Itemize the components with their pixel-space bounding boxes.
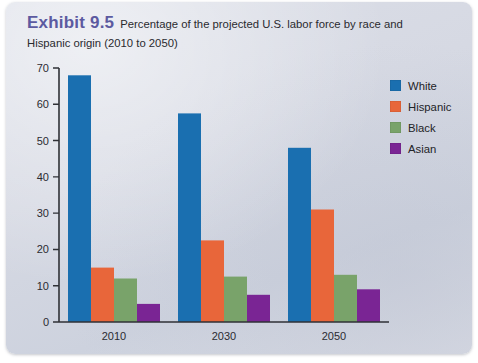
category-label-2030: 2030	[212, 330, 236, 342]
y-axis: 010203040506070	[37, 62, 59, 328]
legend-label-hispanic: Hispanic	[408, 101, 451, 113]
bar-white-2030	[178, 113, 201, 322]
bar-black-2030	[224, 277, 247, 322]
legend-item-hispanic: Hispanic	[390, 96, 472, 117]
legend-label-asian: Asian	[408, 143, 436, 155]
chart-legend: White Hispanic Black Asian	[390, 75, 472, 159]
y-axis-tick-label: 50	[37, 135, 49, 147]
legend-label-black: Black	[408, 122, 436, 134]
chart-plot-area: 010203040506070 201020302050	[6, 2, 472, 354]
bar-black-2050	[334, 275, 357, 322]
bar-asian-2030	[247, 295, 270, 322]
bar-black-2010	[114, 279, 137, 323]
bar-white-2010	[68, 75, 91, 322]
y-axis-tick-label: 60	[37, 98, 49, 110]
legend-swatch-asian	[390, 143, 401, 154]
legend-item-asian: Asian	[390, 138, 472, 159]
legend-swatch-white	[390, 80, 401, 91]
legend-swatch-black	[390, 122, 401, 133]
y-axis-tick-label: 70	[37, 62, 49, 74]
bar-hispanic-2030	[201, 240, 224, 322]
y-axis-tick-label: 20	[37, 243, 49, 255]
legend-label-white: White	[408, 80, 437, 92]
bar-asian-2010	[137, 304, 160, 322]
legend-swatch-hispanic	[390, 101, 401, 112]
category-label-2050: 2050	[322, 330, 346, 342]
bar-white-2050	[288, 148, 311, 322]
category-label-2010: 2010	[102, 330, 126, 342]
category-axis-labels: 201020302050	[102, 330, 346, 342]
exhibit-card: Exhibit 9.5Percentage of the projected U…	[6, 2, 472, 354]
y-axis-tick-label: 30	[37, 207, 49, 219]
bar-hispanic-2050	[311, 210, 334, 323]
bar-asian-2050	[357, 289, 380, 322]
y-axis-tick-label: 10	[37, 280, 49, 292]
bar-hispanic-2010	[91, 268, 114, 322]
bar-chart-svg: 010203040506070 201020302050	[6, 2, 472, 354]
bar-series-group	[68, 75, 380, 322]
legend-item-black: Black	[390, 117, 472, 138]
y-axis-tick-label: 0	[43, 316, 49, 328]
y-axis-tick-label: 40	[37, 171, 49, 183]
legend-item-white: White	[390, 75, 472, 96]
